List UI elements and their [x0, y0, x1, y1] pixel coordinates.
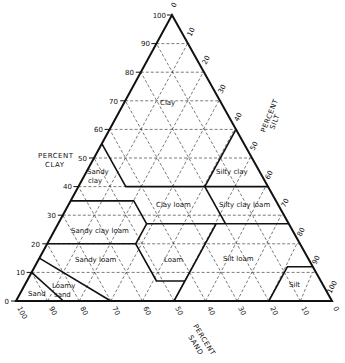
silt-tick: 10: [186, 26, 197, 38]
silt-tick: 80: [296, 226, 307, 238]
region-label-silty-clay-loam: Silty clay loam: [219, 201, 270, 209]
silt-axis-labels: 0 10 20 30 40 50 60 70 80 90 100: [170, 1, 339, 295]
clay-axis-title: PERCENT CLAY: [38, 152, 74, 169]
clay-tick: 80: [125, 69, 134, 77]
region-label-silt-loam: Silt loam: [223, 255, 254, 263]
sand-axis-title: PERCENT SAND: [186, 323, 217, 358]
sand-tick: 40: [205, 305, 216, 317]
clay-tick: 20: [31, 241, 40, 249]
sand-tick: 100: [15, 305, 28, 321]
silt-tick: 100: [326, 279, 339, 295]
region-label-clay: Clay: [160, 99, 175, 107]
silt-axis-title: PERCENT SILT: [259, 98, 281, 134]
region-label-clay-loam: Clay loam: [156, 201, 191, 209]
silt-tick: 0: [170, 1, 179, 9]
silt-tick: 70: [280, 197, 291, 209]
silt-tick: 90: [311, 254, 322, 266]
region-label-sandy-clay-loam: Sandy clay loam: [71, 227, 129, 235]
clay-tick: 70: [109, 98, 118, 106]
clay-tick: 30: [47, 212, 56, 220]
silt-tick: 50: [249, 140, 260, 152]
region-label-sandy-clay: Sandy: [87, 168, 109, 176]
sand-tick: 30: [236, 305, 247, 317]
sand-tick: 10: [299, 305, 310, 317]
svg-text:CLAY: CLAY: [45, 161, 65, 169]
silt-tick: 30: [217, 83, 228, 95]
region-label-sandy-clay: clay: [88, 177, 102, 185]
region-label-sandy-loam: Sandy loam: [75, 256, 116, 264]
silt-tick: 20: [201, 54, 212, 66]
sand-tick: 20: [268, 305, 279, 317]
svg-text:PERCENT: PERCENT: [38, 152, 74, 160]
region-label-loamy-sand: Loamy: [52, 282, 75, 290]
soil-texture-triangle: 0 10 20 30 40 50 60 70 80 90 100 0 10 20…: [0, 0, 345, 363]
clay-tick: 40: [63, 183, 72, 191]
region-label-sand: Sand: [28, 290, 46, 298]
region-label-silty-clay: Silty clay: [216, 168, 248, 176]
clay-tick: 50: [78, 155, 87, 163]
silt-tick: 60: [264, 169, 275, 181]
clay-tick: 90: [141, 40, 150, 48]
sand-tick: 60: [141, 305, 152, 317]
sand-axis-labels: 100 90 80 70 60 50 40 30 20 10 0: [15, 305, 340, 321]
sand-tick: 90: [47, 305, 58, 317]
sand-tick: 50: [173, 305, 184, 317]
clay-tick: 0: [5, 298, 9, 306]
sand-tick: 80: [78, 305, 89, 317]
region-label-silt: Silt: [289, 281, 300, 289]
clay-tick: 60: [94, 126, 103, 134]
sand-tick: 0: [331, 305, 340, 313]
sand-tick: 70: [110, 305, 121, 317]
clay-tick: 100: [153, 12, 166, 20]
region-label-loamy-sand: sand: [54, 291, 71, 299]
clay-tick: 10: [16, 269, 25, 277]
region-label-loam: Loam: [164, 256, 183, 264]
silt-tick: 40: [233, 111, 244, 123]
